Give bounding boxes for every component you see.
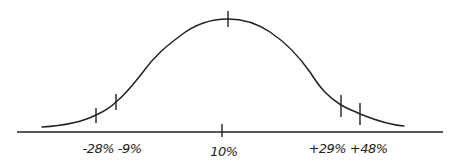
label-center: 10% [210,144,237,159]
bell-curve-diagram [0,0,458,167]
label-upper-markers: +29% +48% [308,141,387,156]
label-lower-markers: -28% -9% [82,141,141,156]
